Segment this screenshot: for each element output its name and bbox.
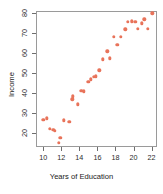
y-axis-tick (32, 93, 36, 94)
x-axis-tick-label: 20 (130, 154, 138, 162)
x-axis-tick (152, 147, 153, 151)
x-axis-tick-label: 14 (75, 154, 83, 162)
scatter-plot-figure: 1012141618202220304050607080 Years of Ed… (0, 0, 163, 194)
y-axis-title: Income (7, 72, 16, 97)
y-axis-tick (32, 73, 36, 74)
y-axis-tick (32, 53, 36, 54)
x-axis-tick (97, 147, 98, 151)
y-axis-tick (32, 13, 36, 14)
x-axis-tick (61, 147, 62, 151)
y-axis-tick-label: 70 (21, 29, 29, 37)
x-axis-tick (115, 147, 116, 151)
x-axis-tick-label: 12 (57, 154, 65, 162)
plot-area (36, 11, 157, 147)
x-axis-tick-label: 22 (148, 154, 156, 162)
x-axis-tick-label: 18 (111, 154, 119, 162)
x-axis-tick-label: 10 (39, 154, 47, 162)
y-axis-tick (32, 33, 36, 34)
y-axis-tick (32, 113, 36, 114)
y-axis-tick-label: 40 (21, 89, 29, 97)
y-axis-tick-label: 60 (21, 49, 29, 57)
y-axis-tick-label: 50 (21, 69, 29, 77)
y-axis-tick-label: 30 (21, 109, 29, 117)
x-axis-title: Years of Education (0, 172, 163, 181)
y-axis-tick (32, 133, 36, 134)
x-axis-tick-label: 16 (93, 154, 101, 162)
x-axis-tick (134, 147, 135, 151)
x-axis-tick (79, 147, 80, 151)
x-axis-tick (43, 147, 44, 151)
y-axis-tick-label: 20 (21, 129, 29, 137)
y-axis-tick-label: 80 (21, 9, 29, 17)
